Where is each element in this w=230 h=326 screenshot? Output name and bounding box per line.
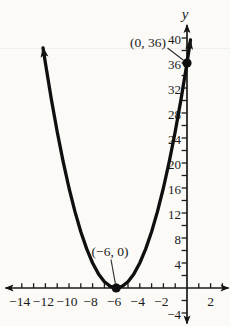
y-tick-label: 40 [168, 32, 181, 47]
y-tick-label: 16 [168, 182, 182, 197]
y-tick-label: 32 [168, 82, 181, 97]
x-tick-label: −14 [9, 294, 30, 309]
x-tick-label: 2 [207, 294, 214, 309]
vertex-leader-line [111, 260, 115, 284]
y-tick-label: 4 [175, 257, 182, 272]
parabola-graph-figure: −14−12−10−8−6−4−22 403632282420161284−4 … [0, 0, 230, 326]
scan-artifact-line [0, 48, 230, 49]
x-tick-label: −12 [33, 294, 54, 309]
y-axis-title: y [180, 6, 189, 22]
plot-canvas: −14−12−10−8−6−4−22 403632282420161284−4 … [0, 0, 230, 326]
x-tick-label: −6 [107, 294, 122, 309]
y-tick-label: 36 [168, 57, 182, 72]
vertex-point-label: (−6, 0) [92, 244, 129, 259]
y-tick-label: 12 [168, 207, 181, 222]
y-axis-tick-labels: 403632282420161284−4 [167, 32, 181, 322]
labeled-point-dot-0 [112, 283, 121, 292]
y-tick-label: 8 [175, 232, 182, 247]
x-tick-label: −4 [131, 294, 146, 309]
labeled-point-dot-1 [182, 58, 191, 67]
x-tick-label: −10 [56, 294, 77, 309]
intercept-point-label: (0, 36) [130, 35, 166, 50]
x-tick-label: −8 [83, 294, 98, 309]
x-axis-tick-labels: −14−12−10−8−6−4−22 [9, 294, 214, 309]
y-tick-label: −4 [167, 307, 181, 322]
